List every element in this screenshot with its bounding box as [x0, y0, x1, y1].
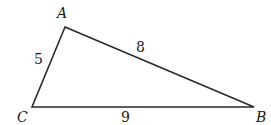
- vertex-label-c: C: [17, 109, 28, 125]
- side-label-ac: 5: [34, 51, 43, 67]
- vertex-label-b: B: [255, 109, 266, 125]
- triangle-diagram: A B C 5 8 9: [0, 0, 271, 125]
- side-label-ab: 8: [136, 39, 145, 55]
- side-label-cb: 9: [121, 109, 130, 125]
- vertex-label-a: A: [55, 5, 67, 21]
